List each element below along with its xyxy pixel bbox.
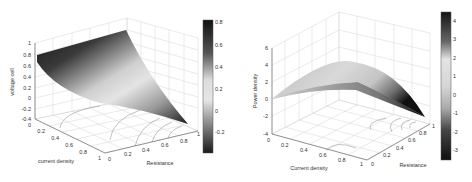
svg-text:0.8: 0.8 — [419, 130, 427, 136]
svg-text:0.6: 0.6 — [161, 142, 169, 148]
svg-text:4: 4 — [265, 62, 268, 68]
power-surface-plot: 6 4 2 0 -2 -4 Power density 0 0.2 0.4 0.… — [236, 0, 472, 182]
x-axis-label: current density — [38, 158, 74, 164]
colorbar — [203, 20, 213, 153]
svg-text:0: 0 — [108, 156, 111, 162]
z-axis-label: Power density — [252, 73, 258, 108]
svg-text:0.4: 0.4 — [23, 74, 31, 80]
svg-text:1: 1 — [98, 155, 101, 161]
voltage-surface — [37, 30, 188, 124]
svg-text:2: 2 — [453, 55, 456, 61]
colorbar-ticks: 4 3 2 1 0 -1 -2 -3 — [453, 18, 458, 153]
svg-text:0: 0 — [215, 108, 218, 114]
svg-text:0.2: 0.2 — [23, 85, 31, 91]
svg-text:0: 0 — [267, 137, 270, 143]
svg-text:0.8: 0.8 — [215, 19, 223, 25]
svg-text:0: 0 — [28, 95, 31, 101]
svg-text:0.4: 0.4 — [396, 145, 404, 151]
svg-text:1: 1 — [197, 131, 200, 137]
svg-text:1: 1 — [360, 161, 363, 167]
svg-text:-1: -1 — [453, 110, 458, 116]
svg-text:0.6: 0.6 — [408, 137, 416, 143]
z-axis-ticks: 1 0.8 0.6 0.4 0.2 0 -0.2 -0.4 — [22, 40, 31, 122]
svg-text:0.8: 0.8 — [23, 52, 31, 58]
svg-text:-2: -2 — [453, 129, 458, 135]
svg-text:0.8: 0.8 — [180, 138, 188, 144]
svg-text:-2: -2 — [263, 113, 268, 119]
svg-text:-0.2: -0.2 — [215, 129, 224, 135]
svg-text:0.2: 0.2 — [124, 151, 132, 157]
svg-text:0.2: 0.2 — [383, 152, 391, 158]
z-axis-ticks: 6 4 2 0 -2 -4 — [263, 45, 268, 137]
svg-text:0.2: 0.2 — [37, 128, 45, 134]
svg-text:4: 4 — [453, 18, 456, 24]
svg-text:1: 1 — [432, 123, 435, 129]
svg-text:2: 2 — [265, 79, 268, 85]
svg-text:0.4: 0.4 — [142, 147, 150, 153]
z-axis-label: voltage cell — [9, 68, 15, 96]
svg-text:0.6: 0.6 — [319, 152, 327, 158]
svg-text:0.2: 0.2 — [215, 86, 223, 92]
y-axis-label: Resistance — [146, 160, 173, 166]
colorbar-ticks: 0.8 0.6 0.4 0.2 0 -0.2 — [215, 19, 224, 135]
svg-text:0: 0 — [371, 161, 374, 167]
svg-text:6: 6 — [265, 45, 268, 51]
svg-text:1: 1 — [453, 73, 456, 79]
svg-text:0: 0 — [28, 122, 31, 128]
svg-text:0.8: 0.8 — [338, 157, 346, 163]
svg-text:0.4: 0.4 — [51, 135, 59, 141]
svg-text:0: 0 — [265, 96, 268, 102]
voltage-surface-plot: 1 0.8 0.6 0.4 0.2 0 -0.2 -0.4 voltage ce… — [0, 0, 236, 182]
y-axis-label: Resistance — [399, 162, 426, 168]
x-axis-label: Current density — [290, 165, 328, 171]
power-surface-svg: 6 4 2 0 -2 -4 Power density 0 0.2 0.4 0.… — [236, 0, 472, 182]
x-axis-ticks: 0 0.2 0.4 0.6 0.8 1 — [28, 122, 101, 161]
svg-text:0.6: 0.6 — [65, 142, 73, 148]
svg-text:0.6: 0.6 — [215, 42, 223, 48]
svg-text:0: 0 — [453, 92, 456, 98]
svg-text:0.8: 0.8 — [79, 149, 87, 155]
svg-text:0.6: 0.6 — [23, 63, 31, 69]
svg-text:-3: -3 — [453, 147, 458, 153]
colorbar — [441, 12, 451, 160]
svg-text:0.2: 0.2 — [281, 142, 289, 148]
svg-text:1: 1 — [28, 40, 31, 46]
y-axis-ticks: 0 0.2 0.4 0.6 0.8 1 — [371, 123, 435, 167]
svg-text:0.4: 0.4 — [300, 147, 308, 153]
svg-text:-0.2: -0.2 — [22, 106, 31, 112]
svg-text:0.4: 0.4 — [215, 64, 223, 70]
voltage-surface-svg: 1 0.8 0.6 0.4 0.2 0 -0.2 -0.4 voltage ce… — [0, 0, 236, 182]
svg-text:3: 3 — [453, 36, 456, 42]
